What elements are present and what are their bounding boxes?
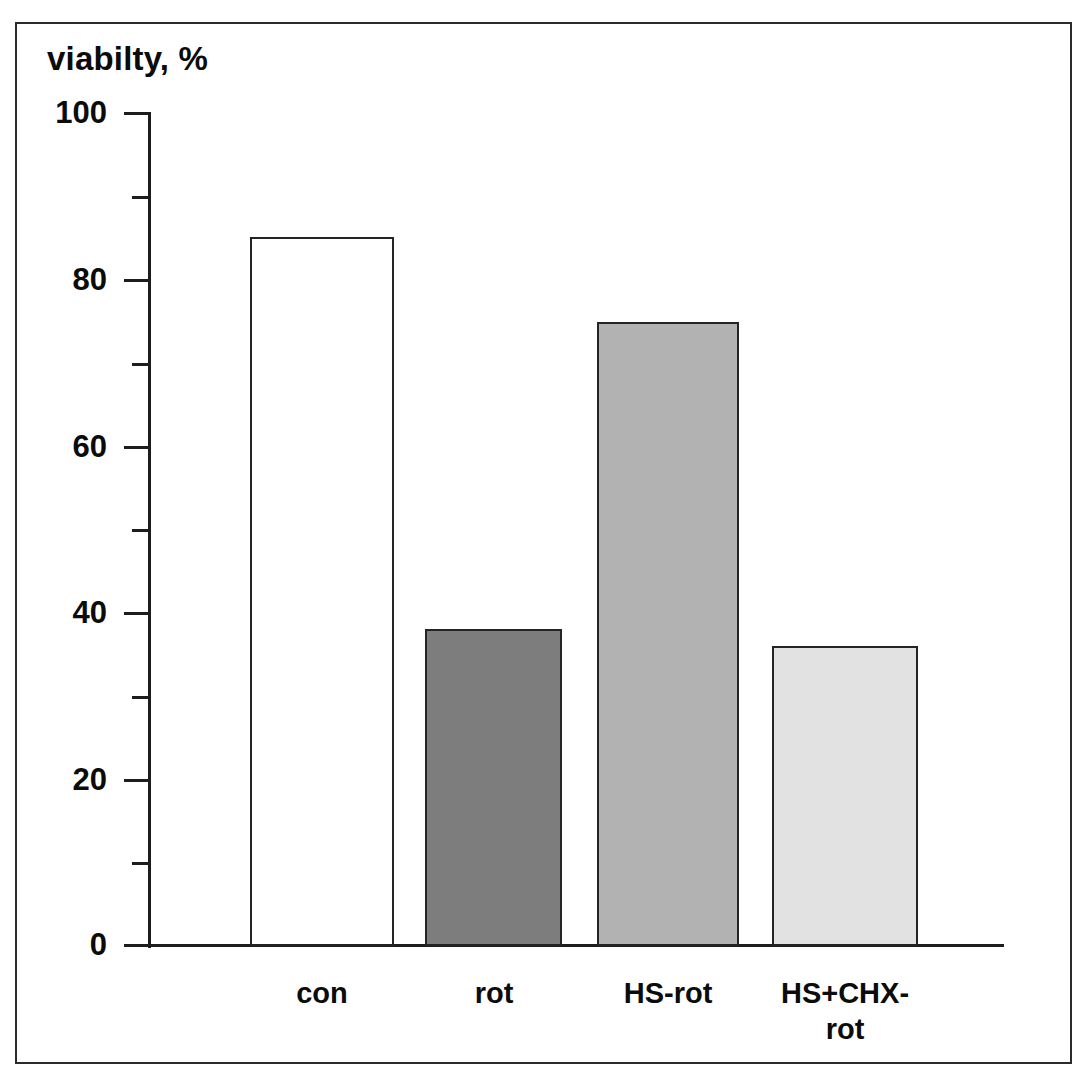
bar-rot[interactable] bbox=[425, 629, 562, 946]
y-tick-major-20 bbox=[124, 779, 149, 782]
y-tick-label-100: 100 bbox=[55, 95, 107, 131]
y-tick-major-60 bbox=[124, 446, 149, 449]
y-tick-major-80 bbox=[124, 279, 149, 282]
plot-area: 100 80 60 40 20 0 con rot HS-rot HS+CHX-… bbox=[0, 0, 1087, 1088]
y-tick-label-0: 0 bbox=[90, 927, 107, 963]
bar-con[interactable] bbox=[250, 237, 394, 946]
bar-hs-rot[interactable] bbox=[597, 322, 739, 946]
y-tick-major-40 bbox=[124, 612, 149, 615]
y-tick-major-0 bbox=[124, 944, 149, 947]
y-tick-label-40: 40 bbox=[73, 595, 107, 631]
bar-hs-chx-rot[interactable] bbox=[772, 646, 918, 946]
y-tick-minor-70 bbox=[132, 363, 149, 366]
y-tick-minor-10 bbox=[132, 862, 149, 865]
y-tick-minor-50 bbox=[132, 529, 149, 532]
y-tick-label-20: 20 bbox=[73, 762, 107, 798]
y-tick-minor-90 bbox=[132, 196, 149, 199]
x-category-label-rot: rot bbox=[475, 975, 514, 1011]
x-category-label-hs-chx-rot: HS+CHX- rot bbox=[781, 975, 909, 1048]
x-category-label-con: con bbox=[296, 975, 348, 1011]
y-tick-minor-30 bbox=[132, 696, 149, 699]
x-category-label-hs-rot: HS-rot bbox=[624, 975, 713, 1011]
y-tick-label-80: 80 bbox=[73, 262, 107, 298]
y-tick-label-60: 60 bbox=[73, 429, 107, 465]
y-tick-major-100 bbox=[124, 112, 149, 115]
